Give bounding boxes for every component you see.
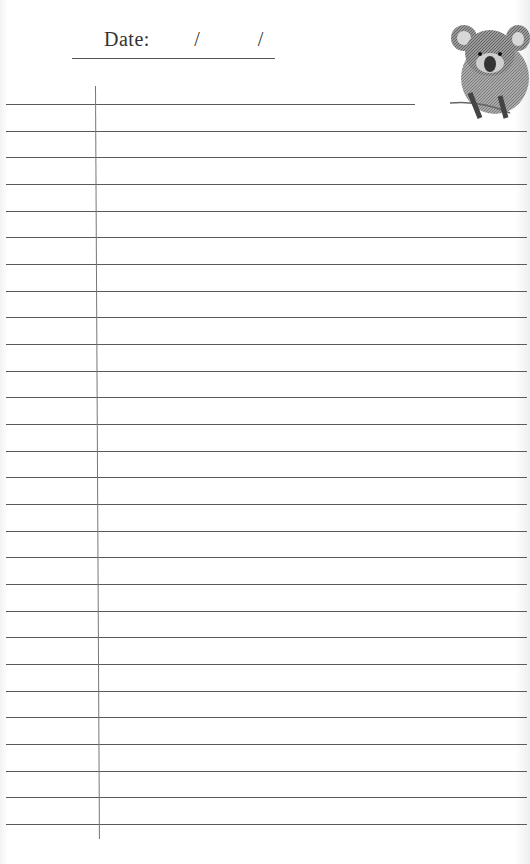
notepad-page: Date: / / bbox=[0, 0, 530, 864]
ruled-line bbox=[6, 771, 527, 772]
date-separator: / bbox=[177, 28, 217, 51]
ruled-line bbox=[6, 744, 527, 745]
ruled-line bbox=[6, 131, 527, 132]
ruled-line bbox=[6, 691, 527, 692]
ruled-line bbox=[6, 424, 527, 425]
ruled-line bbox=[6, 717, 527, 718]
ruled-line bbox=[6, 824, 527, 825]
ruled-line bbox=[6, 157, 527, 158]
ruled-line bbox=[6, 291, 527, 292]
ruled-line bbox=[6, 611, 527, 612]
ruled-line bbox=[6, 264, 527, 265]
ruled-line bbox=[6, 317, 527, 318]
date-label: Date: bbox=[104, 28, 150, 50]
ruled-line bbox=[6, 104, 415, 105]
ruled-line bbox=[6, 211, 527, 212]
ruled-line bbox=[6, 451, 527, 452]
ruled-line bbox=[6, 637, 527, 638]
ruled-line bbox=[6, 557, 527, 558]
ruled-line bbox=[6, 797, 527, 798]
date-separator: / bbox=[241, 28, 281, 51]
koala-icon bbox=[440, 8, 530, 120]
ruled-line bbox=[6, 664, 527, 665]
ruled-line bbox=[6, 584, 527, 585]
ruled-line bbox=[6, 371, 527, 372]
ruled-line bbox=[6, 504, 527, 505]
ruled-line bbox=[6, 184, 527, 185]
margin-line bbox=[95, 86, 100, 839]
ruled-line bbox=[6, 397, 527, 398]
ruled-line bbox=[6, 344, 527, 345]
ruled-line bbox=[6, 237, 527, 238]
ruled-line bbox=[6, 477, 527, 478]
ruled-line bbox=[6, 531, 527, 532]
date-field[interactable]: Date: / / bbox=[104, 28, 281, 51]
date-underline bbox=[72, 58, 275, 59]
